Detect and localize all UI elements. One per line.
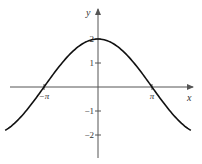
y-tick-label: −1 [84,106,94,116]
y-axis-label: y [85,7,91,18]
chart-canvas: 21−1−2 −ππ x y [0,0,202,164]
x-tick-label: π [150,91,155,101]
y-tick-label: 1 [90,58,95,68]
x-axis-label: x [186,92,192,103]
y-tick-label: −2 [84,130,94,140]
